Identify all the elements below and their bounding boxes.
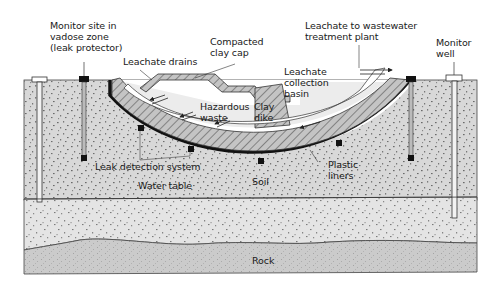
label-monitor-well: Monitor well: [436, 37, 471, 59]
label-water-table: Water table: [138, 180, 192, 191]
label-clay-dike: Clay dike: [254, 101, 274, 123]
vadose-probe-right: [408, 155, 414, 161]
rock-layer: [24, 239, 477, 274]
leader-leachate-drains: [140, 70, 152, 80]
label-compacted-clay-cap: Compacted clay cap: [210, 36, 263, 58]
monitor-well-left: [37, 82, 42, 202]
label-leachate-collection-basin: Leachate collection basin: [284, 66, 329, 99]
label-leachate-drains: Leachate drains: [123, 56, 197, 67]
vadose-monitor-left-cap: [79, 76, 89, 82]
monitor-well-left-cap: [32, 77, 47, 82]
vadose-monitor-right: [409, 82, 413, 160]
label-leak-detection-system: Leak detection system: [95, 161, 200, 172]
vadose-monitor-right-cap: [406, 76, 416, 82]
label-monitor-site: Monitor site in vadose zone (leak protec…: [50, 20, 122, 53]
monitor-well-right-cap: [446, 75, 462, 81]
vadose-monitor-left: [82, 82, 86, 160]
label-soil: Soil: [252, 176, 269, 187]
label-plastic-liners: Plastic liners: [328, 159, 358, 181]
label-hazardous-waste: Hazardous waste: [200, 101, 249, 123]
label-leachate-to-plant: Leachate to wastewater treatment plant: [305, 20, 417, 42]
vadose-probe-left: [81, 155, 87, 161]
label-rock: Rock: [252, 255, 274, 266]
